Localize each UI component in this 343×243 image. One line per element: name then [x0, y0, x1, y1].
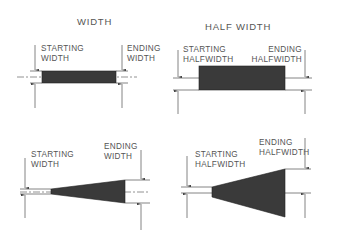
ending-halfwidth-label-line1: ENDING [268, 45, 302, 54]
starting-width-label-line2: WIDTH [31, 160, 59, 169]
starting-halfwidth-label-line2: HALFWIDTH [195, 160, 245, 169]
starting-width-label-line2: WIDTH [41, 54, 69, 63]
panel-tapered-halfwidth: STARTING HALFWIDTH ENDING HALFWIDTH [181, 138, 311, 218]
width-segment-shape [42, 71, 116, 83]
halfwidth-segment-shape [199, 66, 285, 90]
panel-tapered-width: STARTING WIDTH ENDING WIDTH [20, 142, 150, 230]
panel-title-width: WIDTH [77, 16, 112, 27]
ending-width-label-line1: ENDING [104, 142, 138, 151]
starting-halfwidth-label-line1: STARTING [195, 150, 238, 159]
starting-halfwidth-label-line1: STARTING [183, 45, 226, 54]
starting-halfwidth-label-line2: HALFWIDTH [183, 55, 233, 64]
ending-halfwidth-label-line2: HALFWIDTH [259, 148, 309, 157]
polyline-width-diagram: WIDTH STARTING WIDTH ENDING WIDTH HALF W… [0, 0, 343, 243]
panel-width: WIDTH STARTING WIDTH ENDING WIDTH [17, 16, 161, 108]
tapered-width-shape [51, 180, 125, 203]
ending-halfwidth-label-line1: ENDING [259, 138, 293, 147]
starting-width-label-line1: STARTING [31, 150, 74, 159]
panel-title-halfwidth: HALF WIDTH [205, 21, 271, 32]
tapered-halfwidth-shape [212, 169, 285, 217]
ending-width-label-line2: WIDTH [127, 54, 155, 63]
panel-halfwidth: HALF WIDTH STARTING HALFWIDTH ENDING HAL… [173, 21, 312, 114]
ending-width-label-line2: WIDTH [104, 152, 132, 161]
ending-width-label-line1: ENDING [127, 44, 161, 53]
ending-halfwidth-label-line2: HALFWIDTH [252, 55, 302, 64]
starting-width-label-line1: STARTING [41, 44, 84, 53]
